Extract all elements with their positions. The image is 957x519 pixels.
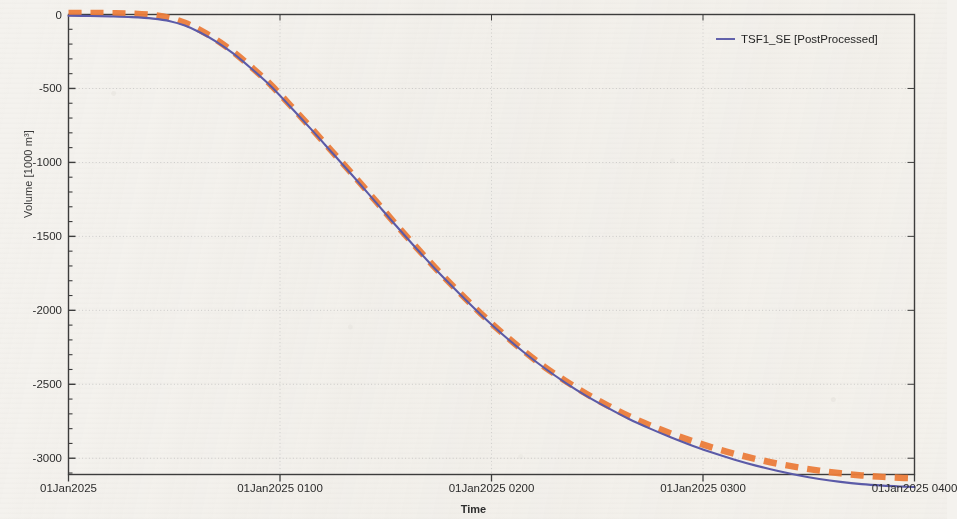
chart-legend: TSF1_SE [PostProcessed] xyxy=(716,33,878,45)
legend-entry-label: TSF1_SE [PostProcessed] xyxy=(741,33,878,45)
x-axis-tick-label: 01Jan2025 0100 xyxy=(237,482,323,494)
y-axis-tick-label: 0 xyxy=(6,9,62,21)
y-axis-tick-label: -1000 xyxy=(6,156,62,168)
y-axis-tick-label: -500 xyxy=(6,82,62,94)
series-line-postprocessed-solid xyxy=(69,16,915,487)
x-axis-title: Time xyxy=(0,503,947,515)
y-axis-tick-label: -2500 xyxy=(6,378,62,390)
y-axis-tick-label: -3000 xyxy=(6,452,62,464)
y-axis-title: Volume [1000 m³] xyxy=(22,94,34,254)
y-axis-tick-label: -2000 xyxy=(6,304,62,316)
gridlines xyxy=(69,15,915,475)
x-axis-tick-label: 01Jan2025 xyxy=(40,482,97,494)
axis-minor-ticks xyxy=(69,29,862,474)
y-axis-tick-label: -1500 xyxy=(6,230,62,242)
x-axis-tick-label: 01Jan2025 0200 xyxy=(449,482,535,494)
series-layer xyxy=(69,13,915,487)
legend-line-swatch-icon xyxy=(716,38,735,40)
x-axis-tick-label: 01Jan2025 0400 xyxy=(872,482,957,494)
x-axis-tick-label: 01Jan2025 0300 xyxy=(660,482,746,494)
